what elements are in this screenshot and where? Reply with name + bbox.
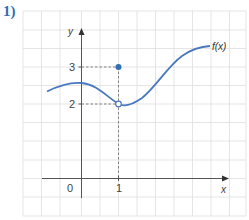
- curve-f: [47, 46, 210, 105]
- x-axis-label: x: [220, 184, 227, 195]
- y-tick-label-3: 3: [69, 61, 75, 73]
- x-tick-label-1: 1: [116, 182, 122, 194]
- open-point: [116, 101, 122, 107]
- filled-point: [116, 64, 122, 70]
- axes: [42, 28, 229, 198]
- x-axis-arrow-icon: [222, 176, 229, 182]
- function-graph: y x 0 1 3 2 f(x): [0, 0, 249, 220]
- origin-label: 0: [67, 182, 73, 194]
- curve-label: f(x): [212, 41, 226, 52]
- y-axis-label: y: [67, 26, 74, 37]
- y-axis-arrow-icon: [79, 28, 85, 35]
- y-tick-label-2: 2: [69, 98, 75, 110]
